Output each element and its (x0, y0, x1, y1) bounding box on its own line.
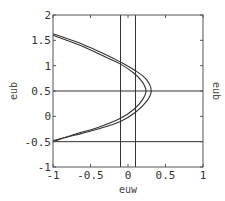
y-tick-label: 2 (44, 9, 51, 22)
x-axis-label: euw (119, 184, 138, 195)
x-tick-label: 0 (125, 169, 132, 182)
y-tick-label: 1 (44, 60, 51, 73)
series-outer-curve (53, 34, 151, 141)
y-axis-label-right: eub (211, 82, 222, 100)
y-tick-label: 1.5 (31, 34, 51, 47)
x-tick-label: 1 (200, 169, 207, 182)
series-group (53, 34, 151, 142)
x-tick-label: 0.5 (156, 169, 176, 182)
y-tick-label: 0 (44, 110, 51, 123)
y-tick-label: -0.5 (25, 136, 52, 149)
y-axis-label: eub (8, 82, 19, 100)
reference-lines (53, 15, 203, 167)
y-tick-label: 0.5 (31, 85, 51, 98)
y-tick-label: -1 (38, 161, 51, 174)
chart: -1-0.500.51 -1-0.500.511.52 euw eub eub (0, 0, 225, 201)
x-tick-label: -0.5 (77, 169, 104, 182)
